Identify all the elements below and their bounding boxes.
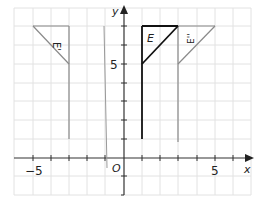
x-axis-label: x [243,163,251,176]
x-tick-label-neg5: −5 [25,164,43,178]
shape-e-double-prime-label: E'' [186,33,196,44]
shape-e-prime-label: E' [51,42,62,51]
x-axis-arrow-icon [245,154,254,162]
y-axis-arrow-icon [120,5,128,14]
origin-label: O [112,162,121,175]
coordinate-grid-figure: E E' E'' x y O −5 5 5 [0,0,266,206]
y-tick-label-5: 5 [110,58,118,72]
shape-e-label: E [147,32,154,45]
y-axis-label: y [111,5,119,18]
x-tick-label-5: 5 [211,164,219,178]
